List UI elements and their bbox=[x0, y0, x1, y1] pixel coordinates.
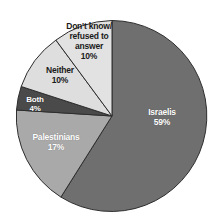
pie-chart: Israelis 59% Palestinians 17% Both 4% Ne… bbox=[0, 0, 215, 222]
pie-chart-svg bbox=[0, 0, 215, 222]
